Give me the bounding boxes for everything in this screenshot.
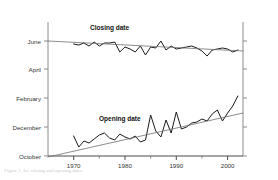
svg-text:December: December xyxy=(12,124,41,131)
figure-container: JuneAprilFebruaryDecemberOctober 1970198… xyxy=(0,0,278,180)
chart-background xyxy=(0,0,278,180)
svg-text:October: October xyxy=(19,153,41,160)
svg-text:April: April xyxy=(29,66,41,73)
figure-caption: Figure 1. Ice closing and opening dates xyxy=(4,168,274,178)
svg-text:Closing date: Closing date xyxy=(90,24,129,32)
svg-text:February: February xyxy=(16,95,42,102)
svg-text:June: June xyxy=(28,38,42,45)
chart-plot: JuneAprilFebruaryDecemberOctober 1970198… xyxy=(0,0,278,180)
svg-text:Opening date: Opening date xyxy=(99,115,141,123)
